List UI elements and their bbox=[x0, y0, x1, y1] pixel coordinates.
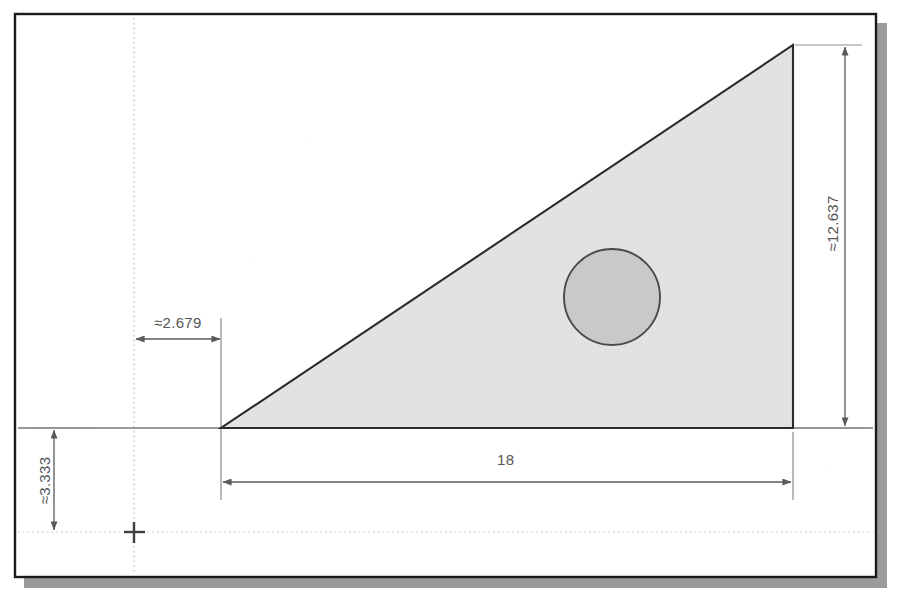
cad-drawing-canvas[interactable] bbox=[0, 0, 906, 597]
cad-drawing-viewport: ≈2.679 18 ≈3.333 ≈12.637 bbox=[0, 0, 906, 597]
dimension-label-height: ≈12.637 bbox=[825, 185, 840, 263]
dimension-label-offset-x: ≈2.679 bbox=[151, 315, 205, 330]
circular-hole-shape[interactable] bbox=[564, 249, 660, 345]
dimension-label-offset-y: ≈3.333 bbox=[37, 447, 52, 515]
dimension-label-base-width: 18 bbox=[494, 452, 517, 467]
